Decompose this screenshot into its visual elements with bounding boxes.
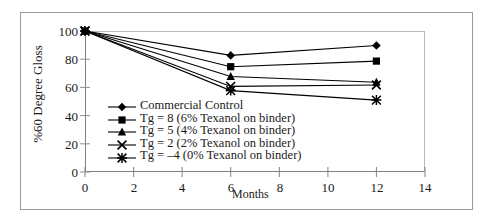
diamond-marker-icon xyxy=(107,99,137,111)
legend-label: Commercial Control xyxy=(137,99,243,112)
cross-x-marker-icon xyxy=(107,137,137,149)
legend-label: Tg = 5 (4% Texanol on binder) xyxy=(137,124,295,137)
asterisk-marker-icon xyxy=(107,150,137,162)
chart-legend: Commercial Control Tg = 8 (6% Texanol on… xyxy=(107,99,317,162)
legend-item-tg-minus-4: Tg = –4 (0% Texanol on binder) xyxy=(107,149,317,162)
data-point-marker xyxy=(227,63,234,70)
data-point-marker xyxy=(373,58,380,65)
legend-item-tg-5: Tg = 5 (4% Texanol on binder) xyxy=(107,124,317,137)
data-point-marker xyxy=(80,26,90,36)
chart-figure: %60 Degree Gloss 100 80 60 40 20 0 0 2 4… xyxy=(0,0,494,222)
triangle-marker-icon xyxy=(107,124,137,136)
legend-label: Tg = –4 (0% Texanol on binder) xyxy=(137,149,301,162)
x-axis-ticks xyxy=(85,167,425,177)
y-axis-ticks xyxy=(80,31,90,172)
data-point-marker xyxy=(226,86,236,96)
data-point-marker xyxy=(372,41,381,50)
legend-item-commercial-control: Commercial Control xyxy=(107,99,317,112)
square-marker-icon xyxy=(107,112,137,124)
data-point-marker xyxy=(371,95,381,105)
data-point-marker xyxy=(226,51,235,60)
